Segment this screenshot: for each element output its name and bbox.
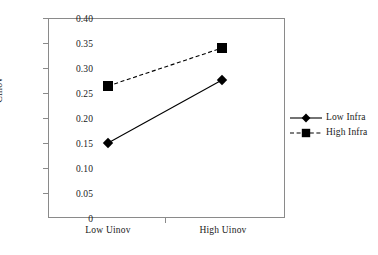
- y-axis-title: Cinov: [0, 77, 4, 102]
- y-tick-label-0.30: 0.30: [53, 65, 93, 75]
- y-tick-label-0: 0: [53, 215, 93, 225]
- x-tick-label-high-uinov: High Uinov: [177, 225, 269, 235]
- y-tick-mark-0.35: [43, 43, 48, 44]
- y-tick-mark-0.05: [43, 193, 48, 194]
- legend-swatch-low-infra: [289, 112, 323, 124]
- y-tick-label-0.15: 0.15: [53, 140, 93, 150]
- y-tick-label-0.10: 0.10: [53, 165, 93, 175]
- y-tick-mark-0.30: [43, 68, 48, 69]
- interaction-plot-figure: Cinov 0.40 0.35 0.30 0.25 0.20 0.15 0.10…: [0, 0, 378, 255]
- y-tick-mark-0.25: [43, 93, 48, 94]
- y-tick-label-0.20: 0.20: [53, 115, 93, 125]
- y-tick-label-0.40: 0.40: [53, 15, 93, 25]
- legend-label-low-infra: Low Infra: [326, 113, 366, 122]
- legend-swatch-high-infra: [289, 127, 323, 139]
- y-tick-mark-0.20: [43, 118, 48, 119]
- x-axis-center-tick: [165, 218, 166, 223]
- legend-label-high-infra: High Infra: [326, 128, 367, 137]
- y-tick-label-0.35: 0.35: [53, 40, 93, 50]
- legend: Low Infra High Infra: [289, 110, 375, 140]
- y-tick-mark-0.40: [43, 18, 48, 19]
- x-tick-label-low-uinov: Low Uinov: [62, 225, 154, 235]
- y-tick-mark-0.15: [43, 143, 48, 144]
- y-tick-label-0.05: 0.05: [53, 190, 93, 200]
- y-tick-mark-0.10: [43, 168, 48, 169]
- legend-item-high-infra: High Infra: [289, 125, 375, 140]
- y-tick-label-0.25: 0.25: [53, 90, 93, 100]
- legend-item-low-infra: Low Infra: [289, 110, 375, 125]
